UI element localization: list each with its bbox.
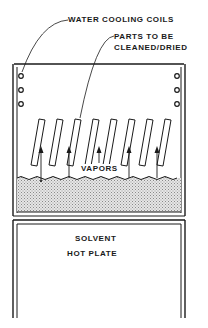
parts-label-line1: PARTS TO BE	[114, 32, 174, 42]
parts-leader	[80, 36, 114, 118]
solvent-fill	[17, 177, 181, 213]
vapors-label: VAPORS	[79, 164, 120, 174]
parts-label-line2: CLEANED/DRIED	[114, 43, 188, 53]
parts	[31, 119, 171, 166]
cooling-coils-right	[175, 74, 180, 107]
solvent-label: SOLVENT	[75, 234, 116, 244]
cooling-coils-left	[19, 74, 24, 107]
cooling-coils-label: WATER COOLING COILS	[68, 15, 174, 25]
hot-plate-label: HOT PLATE	[67, 249, 117, 259]
